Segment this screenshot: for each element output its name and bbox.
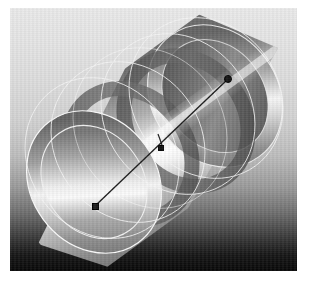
axis-end-handle[interactable]: [224, 75, 232, 83]
3d-canvas[interactable]: [10, 8, 297, 271]
render-viewport[interactable]: [0, 0, 311, 284]
axis-start-handle[interactable]: [92, 203, 99, 210]
axis-midpoint-handle[interactable]: [158, 145, 164, 151]
axis-manipulator-layer[interactable]: [10, 8, 297, 271]
